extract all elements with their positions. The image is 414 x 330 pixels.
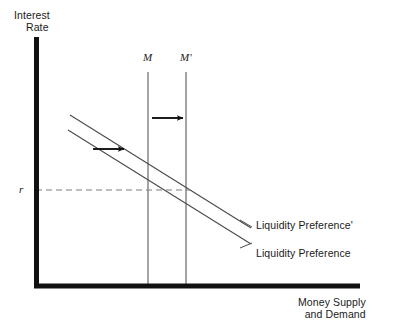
liquidity-preference-prime-curve <box>70 115 251 228</box>
y-axis-title-line2: Rate <box>14 21 50 33</box>
y-axis-title: InterestRate <box>14 9 50 34</box>
chart-canvas <box>0 0 414 330</box>
x-axis-title: Money Supplyand Demand <box>298 296 366 321</box>
liquidity-preference-figure: InterestRate Money Supplyand Demand r M … <box>0 0 414 330</box>
money-supply-prime-label: M' <box>180 51 192 64</box>
lp-leader-line <box>240 243 252 248</box>
liquidity-preference-curve <box>68 130 251 244</box>
y-axis-title-line1: Interest <box>14 9 50 21</box>
lp-prime-leader-line <box>240 220 252 227</box>
liquidity-preference-prime-label: Liquidity Preference' <box>256 219 353 231</box>
x-axis-title-line1: Money Supply <box>298 296 366 308</box>
money-supply-label: M <box>143 51 152 64</box>
liquidity-preference-label: Liquidity Preference <box>256 247 351 259</box>
x-axis-title-line2: and Demand <box>298 308 366 320</box>
equilibrium-rate-label: r <box>19 183 23 196</box>
